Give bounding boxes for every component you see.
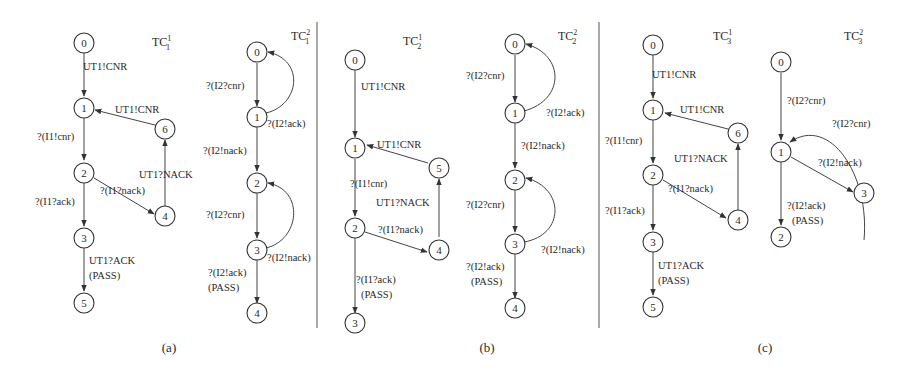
edge-label: ?(I1?nack) [378,224,423,236]
edge-label: ?(I2!nack) [818,157,862,169]
svg-text:5: 5 [650,301,656,313]
edge-label: UT1?NACK [674,153,728,164]
state-node-5: 5 [429,158,449,178]
graph-title: TC13 [713,28,732,46]
state-node-2: 2 [643,165,663,185]
svg-text:4: 4 [254,307,260,319]
state-node-5: 5 [74,293,94,313]
edge-label: ?(I2!nack) [267,252,311,264]
edge-label: UT1!CNR [680,104,724,115]
edge-label: ?(I2?cnr) [206,80,245,92]
edge-label: UT1!CNR [361,81,405,92]
edge-label: UT1!CNR [652,69,696,80]
svg-text:0: 0 [352,54,358,66]
edge-3-2 [524,178,555,242]
edge-1-0 [524,44,555,111]
state-node-3: 3 [643,232,663,252]
svg-text:2: 2 [352,222,358,234]
edge-label: ?(I2?cnr) [466,70,505,82]
svg-text:2: 2 [254,177,260,189]
edge-label: UT1?ACK [89,255,135,266]
edge-label: UT1?NACK [376,197,430,208]
state-node-0: 0 [771,52,791,72]
edge-6-1 [665,113,728,129]
svg-text:5: 5 [436,162,442,174]
state-node-2: 2 [247,173,267,193]
edge-label: ?(I2!nack) [521,140,565,152]
state-node-0: 0 [505,34,525,54]
edge-2-4 [94,178,154,214]
state-node-0: 0 [345,50,365,70]
edge-label: ?(I1!cnr) [37,131,75,143]
edge-3-2 [266,183,294,248]
state-node-2: 2 [505,170,525,190]
state-node-4: 4 [429,240,449,260]
edge-label-pass: (PASS) [89,270,121,282]
state-node-3: 3 [345,313,365,333]
edge-label: ?(I2!ack) [208,267,247,279]
svg-text:0: 0 [512,38,518,50]
svg-text:0: 0 [81,37,87,49]
edge-1-0 [266,52,294,113]
graph-tc-1-2: TC21 ?(I2?cnr) ?(I2!ack) ?(I2!nack) ?(I2… [203,28,311,323]
svg-text:4: 4 [162,210,168,222]
svg-text:6: 6 [162,123,168,135]
edge-label: UT1!CNR [377,139,421,150]
state-node-0: 0 [74,33,94,53]
edge-label: ?(I1?nack) [100,185,145,197]
graph-tc-3-1: TC13 UT1!CNR ?(I1!cnr) ?(I1?ack) ?(I1?na… [605,28,748,317]
panel-caption-a: (a) [162,340,176,355]
edge-label-pass: (PASS) [208,282,240,294]
graph-tc-2-2: TC22 ?(I2?cnr) ?(I2!ack) ?(I2!nack) ?(I2… [466,28,585,318]
state-node-4: 4 [728,210,748,230]
svg-text:3: 3 [81,232,87,244]
svg-text:0: 0 [254,46,260,58]
edge-label: ?(I2!ack) [267,118,306,130]
edge-label: ?(I2!ack) [787,200,826,212]
svg-text:2: 2 [650,169,656,181]
svg-text:1: 1 [512,107,518,119]
svg-text:1: 1 [352,142,358,154]
edge-label: ?(I1?ack) [605,205,645,217]
svg-text:4: 4 [512,302,518,314]
svg-text:4: 4 [436,244,442,256]
edge-label: ?(I1!cnr) [605,135,643,147]
svg-text:3: 3 [512,238,518,250]
edge-label: UT1!CNR [83,61,127,72]
graph-tc-1-1: TC11 UT1!CNR ?(I1!cnr) ?(I1?ack) ?(I1?na… [35,33,193,313]
edge-label: UT1?ACK [658,260,704,271]
state-node-1: 1 [505,103,525,123]
state-node-3: 3 [247,240,267,260]
edge-label: ?(I2!ack) [466,261,505,273]
state-node-1: 1 [345,138,365,158]
state-node-1: 1 [74,98,94,118]
edge-label-pass: (PASS) [658,275,690,287]
svg-text:2: 2 [512,174,518,186]
panel-caption-b: (b) [479,340,494,355]
svg-text:2: 2 [778,231,784,243]
edge-label: ?(I2?cnr) [787,95,826,107]
edge-label: ?(I2?cnr) [466,199,505,211]
state-node-0: 0 [247,42,267,62]
edge-label: ?(I1?nack) [668,183,713,195]
edge-label: UT1?NACK [139,169,193,180]
edge-label-pass: (PASS) [471,276,503,288]
state-node-6: 6 [728,123,748,143]
state-machine-figure: TC11 UT1!CNR ?(I1!cnr) ?(I1?ack) ?(I1?na… [0,0,906,377]
edge-label: ?(I2!ack) [546,107,585,119]
edge-label-pass: (PASS) [792,215,824,227]
state-node-1: 1 [771,142,791,162]
svg-text:1: 1 [81,102,87,114]
svg-text:3: 3 [352,317,358,329]
graph-title: TC12 [403,33,422,51]
svg-text:3: 3 [861,187,867,199]
state-node-0: 0 [643,35,663,55]
state-node-1: 1 [247,107,267,127]
edge-label-pass: (PASS) [361,289,393,301]
svg-text:0: 0 [778,56,784,68]
svg-text:2: 2 [81,167,87,179]
state-node-4: 4 [155,206,175,226]
state-node-4: 4 [505,298,525,318]
graph-title: TC21 [291,28,310,46]
state-node-4: 4 [247,303,267,323]
